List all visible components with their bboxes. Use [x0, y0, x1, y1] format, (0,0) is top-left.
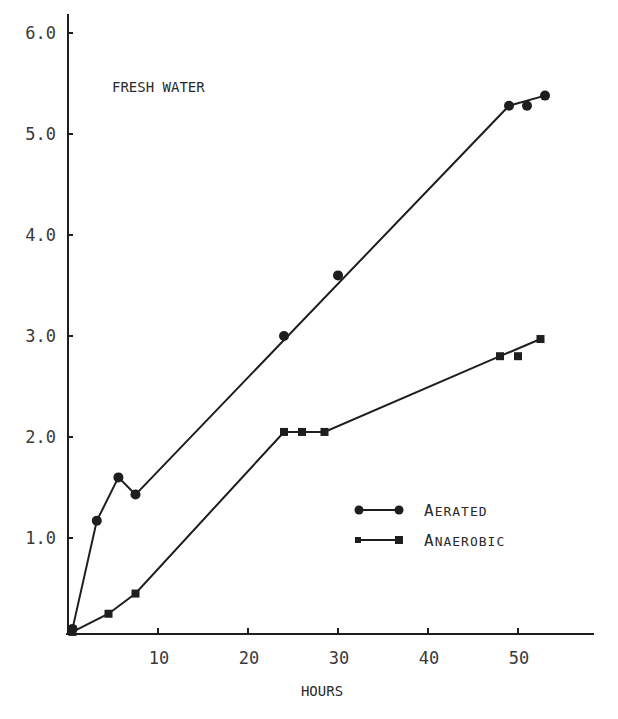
y-tick-label: 3.0 — [25, 326, 56, 346]
legend-item-aerated: AERATED — [355, 501, 488, 520]
x-tick-label: 30 — [329, 648, 349, 668]
x-tick-label: 40 — [419, 648, 439, 668]
chart-annotation: FRESH WATER — [112, 79, 205, 95]
data-point-square — [69, 628, 77, 636]
legend-square-icon — [355, 537, 361, 543]
data-point-square — [105, 610, 113, 618]
data-point-circle — [540, 91, 550, 101]
data-point-square — [321, 428, 329, 436]
legend-item-anaerobic: ANAEROBIC — [355, 531, 505, 550]
data-point-circle — [92, 516, 102, 526]
data-point-square — [496, 352, 504, 360]
data-point-circle — [279, 331, 289, 341]
series-layer — [68, 91, 551, 636]
series-aerated — [68, 91, 551, 634]
legend-circle-icon — [395, 506, 404, 515]
data-point-circle — [522, 101, 532, 111]
series-line — [73, 339, 541, 632]
data-point-circle — [131, 490, 141, 500]
legend-label: ANAEROBIC — [424, 531, 505, 550]
data-point-circle — [113, 472, 123, 482]
y-tick-label: 1.0 — [25, 528, 56, 548]
chart: 1.02.03.04.05.06.01020304050 FRESH WATER… — [0, 0, 618, 719]
legend-square-icon — [395, 536, 403, 544]
y-tick-label: 5.0 — [25, 124, 56, 144]
y-tick-label: 4.0 — [25, 225, 56, 245]
y-tick-label: 6.0 — [25, 23, 56, 43]
axes: 1.02.03.04.05.06.01020304050 — [25, 14, 594, 668]
x-axis-label: HOURS — [301, 683, 343, 699]
data-point-square — [132, 590, 140, 598]
data-point-circle — [333, 270, 343, 280]
legend-circle-icon — [355, 506, 364, 515]
legend: AERATEDANAEROBIC — [355, 501, 506, 550]
data-point-circle — [504, 101, 514, 111]
data-point-square — [537, 335, 545, 343]
x-tick-label: 50 — [509, 648, 529, 668]
series-anaerobic — [69, 335, 545, 636]
data-point-square — [514, 352, 522, 360]
data-point-square — [298, 428, 306, 436]
data-point-square — [280, 428, 288, 436]
y-tick-label: 2.0 — [25, 427, 56, 447]
x-tick-label: 20 — [239, 648, 259, 668]
legend-label: AERATED — [424, 501, 488, 520]
x-tick-label: 10 — [149, 648, 169, 668]
